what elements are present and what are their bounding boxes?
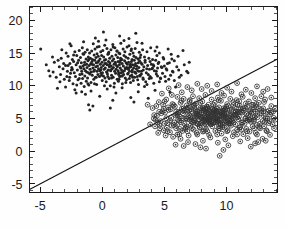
data-point [114, 72, 117, 75]
data-point [145, 67, 148, 70]
data-point-core [162, 104, 164, 106]
data-point [112, 57, 115, 60]
data-point [173, 59, 176, 62]
data-point [73, 71, 76, 74]
data-point-core [202, 107, 204, 109]
data-point [100, 61, 103, 64]
data-point [155, 46, 158, 49]
data-point [101, 71, 104, 74]
data-point-core [181, 118, 183, 120]
data-point-core [191, 110, 193, 112]
data-point-core [224, 139, 226, 141]
data-point [99, 69, 102, 72]
data-point-core [157, 132, 159, 134]
data-point [158, 80, 161, 83]
data-point [154, 89, 157, 92]
data-point-core [233, 131, 235, 133]
data-point-core [155, 119, 157, 121]
data-point-core [179, 128, 181, 130]
data-point [171, 70, 174, 73]
data-point-core [196, 134, 198, 136]
data-point-core [164, 100, 166, 102]
data-point [96, 52, 99, 55]
data-point [139, 53, 142, 56]
data-point-core [256, 134, 258, 136]
data-point [127, 57, 130, 60]
data-point [128, 77, 131, 80]
data-point [109, 69, 112, 72]
data-point-core [260, 112, 262, 114]
data-point [55, 76, 58, 79]
data-point-core [263, 125, 265, 127]
data-point [87, 103, 90, 106]
data-point [156, 67, 159, 70]
data-point [68, 76, 71, 79]
data-point [128, 66, 131, 69]
data-point [92, 70, 95, 73]
data-point [76, 61, 79, 64]
data-point-core [231, 114, 233, 116]
y-tick-label: 15 [9, 47, 23, 61]
data-point-core [206, 85, 208, 87]
data-point-core [199, 109, 201, 111]
data-point-core [193, 104, 195, 106]
data-point-core [202, 140, 204, 142]
data-point-core [245, 117, 247, 119]
data-point-core [240, 111, 242, 113]
data-point-core [181, 91, 183, 93]
data-point [143, 85, 146, 88]
data-point-core [246, 113, 248, 115]
data-point [144, 59, 147, 62]
data-point [113, 82, 116, 85]
data-point [137, 83, 140, 86]
data-point [76, 69, 79, 72]
data-point [80, 70, 83, 73]
data-point [137, 70, 140, 73]
data-point-core [171, 125, 173, 127]
data-point [134, 72, 137, 75]
data-point-core [175, 111, 177, 113]
data-point [106, 75, 109, 78]
data-point [152, 82, 155, 85]
data-point-core [211, 90, 213, 92]
data-point-core [259, 126, 261, 128]
data-point [108, 57, 111, 60]
data-point-core [228, 145, 230, 147]
data-point-core [205, 94, 207, 96]
data-point [86, 48, 89, 51]
data-point [87, 58, 90, 61]
data-point [103, 62, 106, 65]
data-point-core [236, 82, 238, 84]
data-point [63, 78, 66, 81]
data-point [102, 55, 105, 58]
data-point-core [189, 100, 191, 102]
data-point-core [169, 120, 171, 122]
data-point [58, 80, 61, 83]
data-point-core [223, 149, 225, 151]
data-point-core [152, 107, 154, 109]
data-point [80, 61, 83, 64]
data-point [89, 68, 92, 71]
data-point [118, 61, 121, 64]
data-point [90, 81, 93, 84]
data-point [86, 76, 89, 79]
data-point [117, 69, 120, 72]
data-point-core [257, 141, 259, 143]
data-point-core [214, 118, 216, 120]
data-point-core [183, 107, 185, 109]
data-point-core [224, 108, 226, 110]
data-point [73, 50, 76, 53]
data-point-core [236, 134, 238, 136]
data-point [145, 50, 148, 53]
data-point-core [236, 116, 238, 118]
data-point-core [172, 136, 174, 138]
data-point-core [211, 99, 213, 101]
data-point [158, 52, 161, 55]
data-point-core [257, 116, 259, 118]
data-point [119, 57, 122, 60]
data-point [75, 84, 78, 87]
data-point [98, 45, 101, 48]
data-point [127, 44, 130, 47]
data-point-core [200, 116, 202, 118]
data-point [39, 48, 42, 51]
